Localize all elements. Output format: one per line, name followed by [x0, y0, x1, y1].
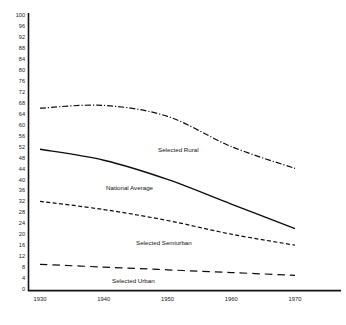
y-tick-label: 64	[19, 111, 25, 117]
y-tick-label: 20	[19, 231, 25, 237]
y-tick-label: 100	[16, 12, 25, 18]
series-label-rural: Selected Rural	[158, 146, 199, 153]
y-tick-label: 68	[19, 100, 25, 106]
y-tick-label: 24	[19, 220, 25, 226]
series-label-urban: Selected Urban	[112, 277, 155, 284]
y-tick-label: 40	[19, 177, 25, 183]
y-tick-label: 84	[19, 56, 25, 62]
y-tick-label: 0	[22, 286, 25, 292]
y-tick-label: 12	[19, 253, 25, 259]
plot-background	[0, 0, 346, 325]
chart-container: 0481216202428323640444852566064687276808…	[0, 0, 346, 325]
x-tick-label: 1970	[289, 296, 302, 302]
y-tick-label: 16	[19, 242, 25, 248]
y-tick-label: 44	[19, 166, 25, 172]
y-tick-label: 32	[19, 198, 25, 204]
y-tick-label: 76	[19, 78, 25, 84]
y-tick-label: 48	[19, 155, 25, 161]
x-tick-label: 1960	[225, 296, 238, 302]
series-label-semiurban: Selected Semiurban	[136, 239, 192, 246]
y-tick-label: 36	[19, 187, 25, 193]
y-tick-label: 56	[19, 133, 25, 139]
series-label-national: National Average	[106, 184, 154, 191]
x-tick-label: 1950	[161, 296, 174, 302]
x-tick-label: 1940	[97, 296, 110, 302]
y-tick-label: 96	[19, 23, 25, 29]
y-tick-label: 4	[22, 275, 25, 281]
y-tick-label: 52	[19, 144, 25, 150]
y-tick-label: 60	[19, 122, 25, 128]
y-tick-label: 80	[19, 67, 25, 73]
y-tick-label: 28	[19, 209, 25, 215]
y-tick-label: 72	[19, 89, 25, 95]
line-chart: 0481216202428323640444852566064687276808…	[0, 0, 346, 325]
y-tick-label: 92	[19, 34, 25, 40]
y-tick-label: 88	[19, 45, 25, 51]
y-tick-label: 8	[22, 264, 25, 270]
x-tick-label: 1930	[34, 296, 47, 302]
